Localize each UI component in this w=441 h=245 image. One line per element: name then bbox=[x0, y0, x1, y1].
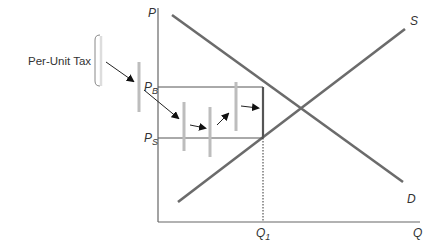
per-unit-tax-label: Per-Unit Tax bbox=[28, 55, 91, 67]
seller-price-label: PS bbox=[144, 131, 158, 147]
supply-label: S bbox=[410, 14, 418, 28]
x-axis-label: Q bbox=[413, 226, 422, 240]
quantity-label: Q1 bbox=[256, 226, 270, 242]
demand-curve bbox=[172, 15, 403, 182]
demand-label: D bbox=[407, 192, 416, 206]
axes bbox=[158, 8, 420, 222]
tax-wedge-diagram: P Q D S PB PS Q1 Per-Unit Tax bbox=[0, 0, 441, 245]
y-axis-label: P bbox=[148, 6, 156, 20]
buyer-price-label: PB bbox=[144, 80, 158, 96]
tax-bracket bbox=[95, 35, 100, 86]
supply-curve bbox=[178, 29, 405, 202]
